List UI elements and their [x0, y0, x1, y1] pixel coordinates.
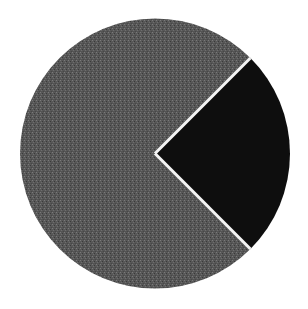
- pie-chart: [0, 0, 308, 309]
- pie-chart-svg: [0, 0, 308, 309]
